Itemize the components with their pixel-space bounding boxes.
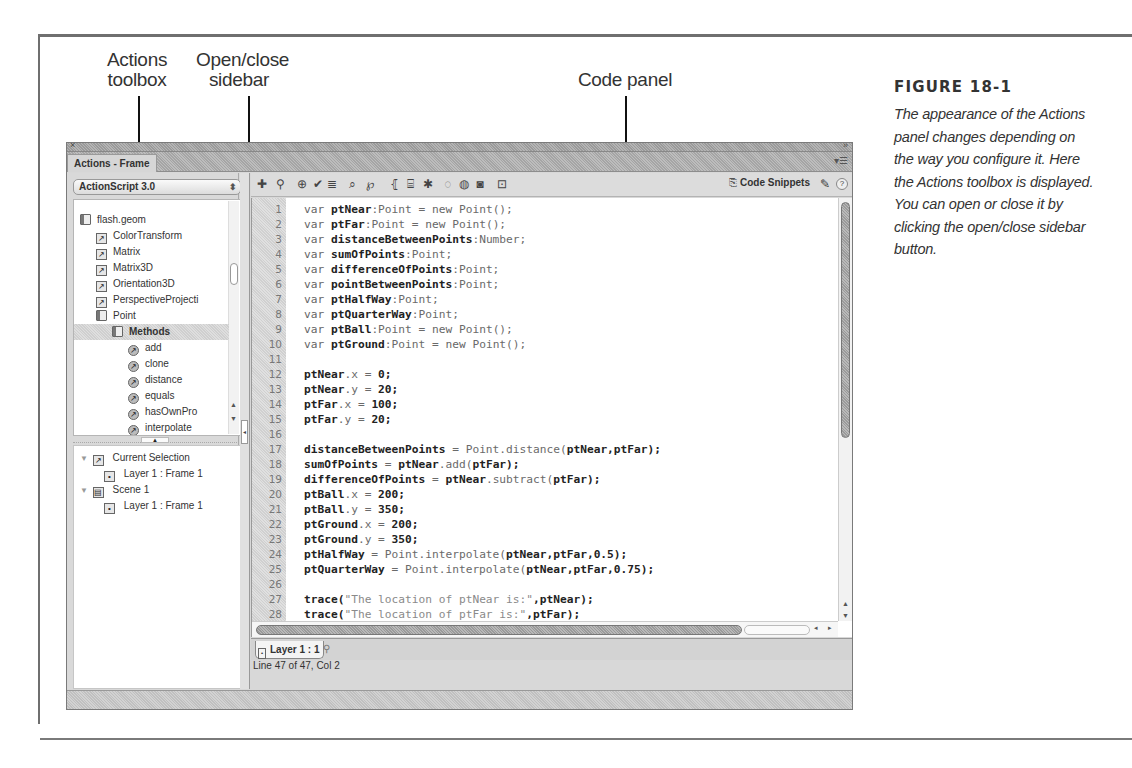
pin-script-icon[interactable]: ⚲ (323, 643, 330, 654)
code-line[interactable]: 3var distanceBetweenPoints:Number; (252, 232, 852, 247)
toolbox-item[interactable]: ↗add (74, 340, 229, 356)
toolbox-item[interactable]: ↗distance (74, 372, 229, 388)
code-line[interactable]: 14ptFar.x = 100; (252, 397, 852, 412)
code-line[interactable]: 10var ptGround:Point = new Point(); (252, 337, 852, 352)
code-line[interactable]: 5var differenceOfPoints:Point; (252, 262, 852, 277)
code-line[interactable]: 1var ptNear:Point = new Point(); (252, 202, 852, 217)
code-line[interactable]: 22ptGround.x = 200; (252, 517, 852, 532)
open-close-sidebar-button[interactable]: ◂ (241, 420, 248, 444)
code-line[interactable]: 24ptHalfWay = Point.interpolate(ptNear,p… (252, 547, 852, 562)
toolbox-item[interactable]: ↗Matrix3D (74, 260, 229, 276)
code-line[interactable]: 23ptGround.y = 350; (252, 532, 852, 547)
insert-target-path-icon[interactable]: ⊕ (295, 177, 309, 191)
line-number: 9 (252, 322, 282, 337)
code-line[interactable]: 25ptQuarterWay = Point.interpolate(ptNea… (252, 562, 852, 577)
nav-item-layer-frame[interactable]: • Layer 1 : Frame 1 (104, 466, 203, 482)
code-horizontal-scrollbar[interactable]: ◂ ▸ (252, 621, 838, 637)
toolbox-item[interactable]: Methods (74, 324, 229, 340)
code-line[interactable]: 28trace("The location of ptFar is:",ptFa… (252, 607, 852, 622)
panel-title-strip[interactable]: × » (67, 143, 852, 152)
nav-item-scene[interactable]: ▼ ▤ Scene 1 (74, 482, 149, 498)
toolbox-splitter[interactable]: ▲ (73, 437, 241, 443)
disclosure-triangle-icon[interactable]: ▼ (80, 451, 90, 467)
scrollbar-thumb[interactable] (230, 263, 238, 285)
close-icon[interactable]: × (70, 140, 75, 150)
debug-options-icon[interactable]: ℘ (363, 177, 377, 191)
show-hide-toolbox-icon[interactable]: ⊡ (495, 177, 509, 191)
splitter-grip-icon[interactable]: ▲ (141, 437, 169, 443)
scroll-right-icon[interactable]: ▸ (828, 624, 832, 632)
toolbox-item[interactable]: ↗PerspectiveProjecti (74, 292, 229, 308)
code-line[interactable]: 15ptFar.y = 20; (252, 412, 852, 427)
panel-menu-icon[interactable]: ▾☰ (834, 155, 848, 166)
auto-format-icon[interactable]: ≣ (325, 177, 339, 191)
code-line[interactable]: 11 (252, 352, 852, 367)
scroll-down-icon[interactable]: ▼ (230, 415, 237, 422)
code-panel[interactable]: 1var ptNear:Point = new Point();2var ptF… (251, 198, 852, 637)
toolbox-item[interactable]: ↗hasOwnPro (74, 404, 229, 420)
scrollbar-track[interactable] (744, 625, 810, 635)
code-line[interactable]: 21ptBall.y = 350; (252, 502, 852, 517)
code-token: var (304, 248, 331, 261)
find-icon[interactable]: ⚲ (273, 177, 287, 191)
code-line[interactable]: 9var ptBall:Point = new Point(); (252, 322, 852, 337)
code-token: ptNear (445, 473, 485, 486)
toolbox-tree-scrollbar[interactable]: ▲ ▼ (228, 201, 239, 434)
scrollbar-thumb[interactable] (841, 202, 850, 438)
code-line[interactable]: 17distanceBetweenPoints = Point.distance… (252, 442, 852, 457)
toolbox-item[interactable]: ↗interpolate (74, 420, 229, 436)
check-syntax-icon[interactable]: ✔ (311, 177, 325, 191)
script-tab-layer[interactable]: •Layer 1 : 1 (255, 641, 324, 659)
pencil-icon[interactable]: ✎ (820, 177, 830, 191)
scrollbar-thumb[interactable] (256, 625, 742, 635)
collapse-selection-icon[interactable]: ⌸ (403, 177, 417, 191)
nav-item-current-selection[interactable]: ▼ ↗ Current Selection (74, 450, 190, 466)
code-vertical-scrollbar[interactable]: ▲ ▼ (838, 198, 852, 621)
code-snippets-button[interactable]: ⎘Code Snippets (729, 177, 810, 189)
toolbox-tree[interactable]: ▲ ▼ flash.geom↗ColorTransform↗Matrix↗Mat… (73, 199, 241, 436)
apply-block-comment-icon[interactable]: ◌ (441, 177, 455, 191)
code-line[interactable]: 18sumOfPoints = ptNear.add(ptFar); (252, 457, 852, 472)
code-line[interactable]: 20ptBall.x = 200; (252, 487, 852, 502)
collapse-between-braces-icon[interactable]: ⦃ (387, 177, 401, 191)
code-line[interactable]: 27trace("The location of ptNear is:",ptN… (252, 592, 852, 607)
code-line[interactable]: 4var sumOfPoints:Point; (252, 247, 852, 262)
scroll-down-icon[interactable]: ▼ (842, 612, 849, 619)
code-line[interactable]: 8var ptQuarterWay:Point; (252, 307, 852, 322)
scroll-up-icon[interactable]: ▲ (230, 401, 237, 408)
apply-line-comment-icon[interactable]: ◍ (457, 177, 471, 191)
code-line[interactable]: 12ptNear.x = 0; (252, 367, 852, 382)
code-line[interactable]: 2var ptFar:Point = new Point(); (252, 217, 852, 232)
toolbox-item[interactable]: Point (74, 308, 229, 324)
class-icon: ↗ (96, 265, 107, 276)
scroll-up-icon[interactable]: ▲ (842, 600, 849, 607)
toolbox-item[interactable]: ↗equals (74, 388, 229, 404)
toolbox-item[interactable]: ↗ColorTransform (74, 228, 229, 244)
tab-actions-frame[interactable]: Actions - Frame (67, 154, 157, 172)
code-line[interactable]: 13ptNear.y = 20; (252, 382, 852, 397)
code-line[interactable]: 7var ptHalfWay:Point; (252, 292, 852, 307)
add-statement-icon[interactable]: ✚ (255, 177, 269, 191)
code-line[interactable]: 16 (252, 427, 852, 442)
code-line[interactable]: 6var pointBetweenPoints:Point; (252, 277, 852, 292)
toolbox-item[interactable]: ↗clone (74, 356, 229, 372)
toolbox-item[interactable]: ↗Matrix (74, 244, 229, 260)
panel-resize-strip[interactable] (67, 690, 852, 709)
toolbox-item[interactable]: ↗Orientation3D (74, 276, 229, 292)
line-number: 23 (252, 532, 282, 547)
code-line[interactable]: 26 (252, 577, 852, 592)
disclosure-triangle-icon[interactable]: ▼ (80, 483, 90, 499)
scroll-left-icon[interactable]: ◂ (814, 624, 818, 632)
collapse-panel-icon[interactable]: » (843, 140, 848, 150)
code-token: :Point; (392, 293, 439, 306)
remove-comment-icon[interactable]: ◙ (473, 177, 487, 191)
toolbox-item[interactable]: flash.geom (74, 212, 229, 228)
code-line[interactable]: 19differenceOfPoints = ptNear.subtract(p… (252, 472, 852, 487)
help-icon[interactable]: ? (836, 178, 848, 190)
nav-item-layer-frame[interactable]: • Layer 1 : Frame 1 (104, 498, 203, 514)
actionscript-version-select[interactable]: ActionScript 3.0 ⬍ (73, 179, 241, 195)
show-code-hint-icon[interactable]: ⌕ (345, 177, 359, 191)
sidebar-divider[interactable]: ◂ (240, 173, 250, 689)
line-number: 25 (252, 562, 282, 577)
expand-all-icon[interactable]: ✱ (421, 177, 435, 191)
